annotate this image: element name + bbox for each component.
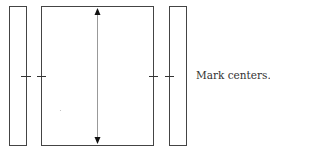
arrow-down-icon: [95, 137, 101, 144]
arrow-up-icon: [95, 8, 101, 15]
stray-dot: [60, 110, 61, 111]
vertical-dimension-arrow: [95, 8, 101, 144]
caption-text: Mark centers.: [196, 69, 270, 81]
